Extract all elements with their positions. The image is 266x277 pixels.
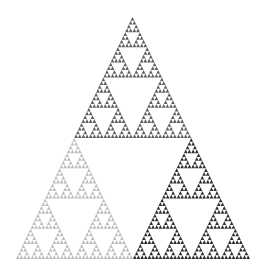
fractal-cell (140, 59, 144, 63)
fractal-cell (239, 248, 243, 252)
fractal-cell (49, 195, 53, 199)
fractal-cell (31, 225, 35, 229)
fractal-cell (230, 221, 234, 225)
fractal-cell (144, 59, 148, 63)
fractal-cell (149, 130, 153, 134)
fractal-cell (62, 236, 66, 240)
fractal-cell (107, 210, 111, 214)
fractal-cell (147, 119, 151, 123)
fractal-cell (45, 202, 49, 206)
fractal-cell (151, 248, 155, 252)
fractal-cell (69, 191, 73, 195)
fractal-cell (237, 251, 241, 255)
fractal-cell (213, 255, 217, 259)
fractal-cell (153, 214, 157, 218)
fractal-cell (204, 229, 208, 233)
subtriangle-bottom-right (133, 138, 250, 259)
fractal-cell (133, 134, 137, 138)
fractal-cell (144, 43, 148, 47)
fractal-cell (195, 248, 199, 252)
fractal-cell (162, 255, 166, 259)
fractal-cell (98, 85, 102, 89)
fractal-cell (41, 202, 45, 206)
fractal-cell (34, 248, 38, 252)
fractal-cell (166, 248, 170, 252)
fractal-cell (171, 115, 175, 119)
fractal-cell (222, 206, 226, 210)
fractal-cell (166, 225, 170, 229)
fractal-cell (169, 180, 173, 184)
fractal-cell (113, 70, 117, 74)
fractal-cell (16, 255, 20, 259)
fractal-cell (199, 240, 203, 244)
fractal-cell (62, 251, 66, 255)
fractal-cell (76, 146, 80, 150)
fractal-cell (178, 115, 182, 119)
fractal-cell (89, 119, 93, 123)
fractal-cell (85, 119, 89, 123)
fractal-cell (184, 248, 188, 252)
fractal-cell (215, 191, 219, 195)
fractal-cell (84, 236, 88, 240)
fractal-cell (74, 164, 78, 168)
fractal-cell (64, 255, 68, 259)
fractal-cell (133, 74, 137, 78)
fractal-cell (32, 221, 36, 225)
fractal-cell (181, 255, 185, 259)
fractal-cell (63, 157, 67, 161)
fractal-cell (147, 51, 151, 55)
fractal-cell (177, 112, 181, 116)
fractal-cell (177, 164, 181, 168)
fractal-cell (93, 240, 97, 244)
fractal-cell (27, 233, 31, 237)
fractal-cell (151, 127, 155, 131)
fractal-cell (202, 255, 206, 259)
fractal-cell (82, 255, 86, 259)
fractal-cell (166, 104, 170, 108)
fractal-cell (170, 240, 174, 244)
fractal-cell (148, 233, 152, 237)
fractal-cell (140, 119, 144, 123)
fractal-cell (162, 104, 166, 108)
fractal-cell (127, 130, 131, 134)
fractal-cell (193, 251, 197, 255)
fractal-cell (142, 55, 146, 59)
fractal-cell (210, 248, 214, 252)
fractal-cell (164, 221, 168, 225)
fractal-cell (107, 127, 111, 131)
fractal-cell (107, 104, 111, 108)
fractal-cell (199, 195, 203, 199)
fractal-cell (171, 191, 175, 195)
fractal-cell (175, 229, 179, 233)
fractal-cell (169, 187, 173, 191)
fractal-cell (123, 62, 127, 66)
fractal-cell (76, 161, 80, 165)
fractal-cell (93, 195, 97, 199)
fractal-cell (32, 251, 36, 255)
fractal-cell (60, 180, 64, 184)
fractal-cell (52, 195, 56, 199)
fractal-cell (246, 255, 250, 259)
fractal-cell (38, 225, 42, 229)
fractal-cell (192, 255, 196, 259)
fractal-cell (241, 244, 245, 248)
fractal-cell (228, 255, 232, 259)
fractal-cell (147, 59, 151, 63)
fractal-cell (188, 195, 192, 199)
fractal-cell (111, 134, 115, 138)
fractal-cell (153, 123, 157, 127)
fractal-cell (100, 89, 104, 93)
fractal-cell (54, 176, 58, 180)
fractal-cell (186, 251, 190, 255)
fractal-cell (125, 134, 129, 138)
fractal-cell (129, 43, 133, 47)
fractal-cell (166, 134, 170, 138)
fractal-cell (151, 74, 155, 78)
fractal-cell (122, 134, 126, 138)
fractal-cell (84, 191, 88, 195)
fractal-cell (155, 104, 159, 108)
fractal-cell (180, 180, 184, 184)
fractal-cell (104, 202, 108, 206)
fractal-cell (201, 236, 205, 240)
fractal-cell (134, 70, 138, 74)
